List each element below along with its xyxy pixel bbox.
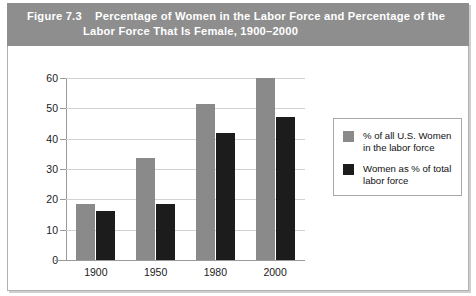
legend-item: Women as % of total labor force [343,163,459,187]
figure-container: Figure 7.3 Percentage of Women in the La… [0,0,476,296]
bar-group [256,78,295,260]
y-axis-tick-label: 40 [18,133,58,145]
figure-title-band: Figure 7.3 Percentage of Women in the La… [7,3,469,46]
y-axis-tick [60,78,66,79]
y-axis-tick [60,108,66,109]
bar [136,158,155,260]
y-axis-tick-label: 10 [18,224,58,236]
y-axis-tick [60,199,66,200]
bars-layer [66,78,305,260]
legend-label: % of all U.S. Women in the labor force [363,130,459,154]
x-axis-tick-label: 2000 [263,266,286,278]
figure-title-line1: Percentage of Women in the Labor Force a… [95,10,445,22]
chart-legend: % of all U.S. Women in the labor force W… [333,118,462,196]
y-axis-tick-label: 30 [18,163,58,175]
y-axis-tick [60,169,66,170]
legend-swatch-icon [343,131,354,142]
bar-group [196,78,235,260]
bar [96,211,115,260]
y-axis-labels: 0102030405060 [12,0,58,296]
legend-label: Women as % of total labor force [363,163,459,187]
bar-group [76,78,115,260]
y-axis-tick [60,230,66,231]
bar [156,204,175,260]
x-axis-line [55,260,305,261]
y-axis-tick-label: 50 [18,102,58,114]
legend-item: % of all U.S. Women in the labor force [343,130,459,154]
bar [196,104,215,260]
x-axis-tick-label: 1950 [144,266,167,278]
figure-title: Figure 7.3 Percentage of Women in the La… [27,9,459,39]
x-axis-tick-label: 1900 [84,266,107,278]
bar [256,78,275,260]
figure-title-line2: Labor Force That Is Female, 1900–2000 [27,24,459,39]
y-axis-tick-label: 60 [18,72,58,84]
y-axis-tick-label: 20 [18,193,58,205]
bar [76,204,95,260]
y-axis-tick [60,260,66,261]
bar [216,133,235,260]
y-axis-tick-label: 0 [18,254,58,266]
bar-group [136,78,175,260]
bar [276,117,295,260]
x-axis-tick-label: 1980 [204,266,227,278]
y-axis-tick [60,139,66,140]
legend-swatch-icon [343,164,354,175]
